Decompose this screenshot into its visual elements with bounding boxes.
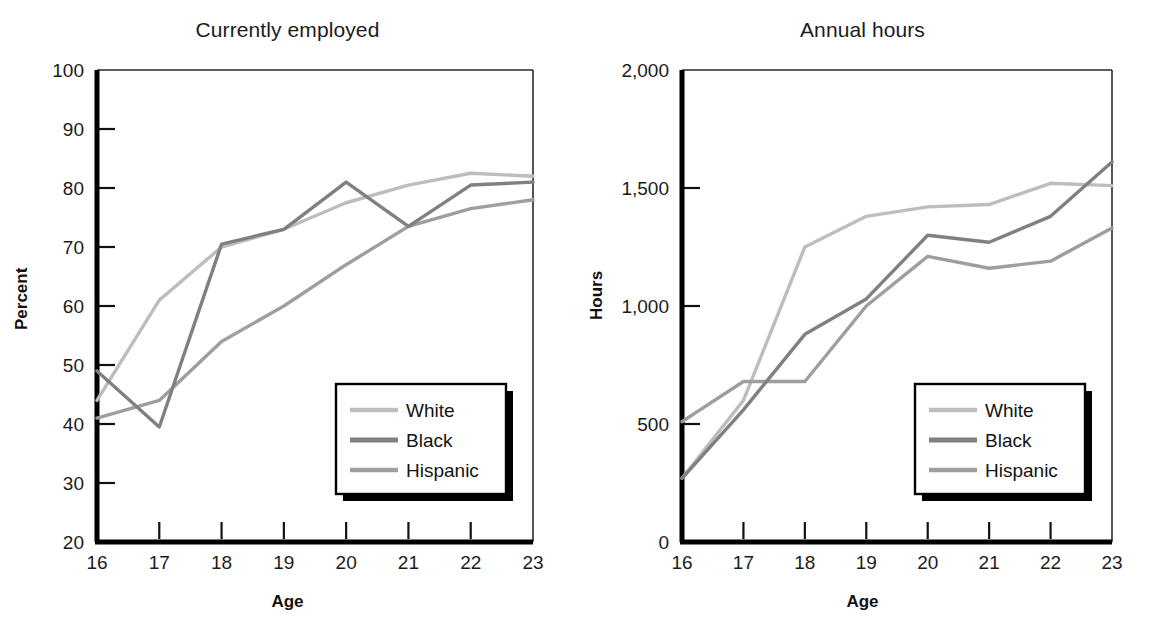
y-tick-label: 100 [52,60,84,81]
x-tick-label: 20 [917,552,938,573]
x-tick-label: 22 [1040,552,1061,573]
y-tick-label: 40 [63,414,84,435]
x-tick-label: 21 [979,552,1000,573]
y-tick-label: 70 [63,237,84,258]
plot-area-right: 05001,0001,5002,0001617181920212223White… [575,0,1150,629]
x-tick-label: 23 [1101,552,1122,573]
x-tick-label: 17 [149,552,170,573]
legend-label-black: Black [985,430,1032,451]
x-tick-label: 16 [86,552,107,573]
y-tick-label: 30 [63,473,84,494]
y-tick-label: 60 [63,296,84,317]
x-tick-label: 18 [794,552,815,573]
y-tick-label: 500 [637,414,669,435]
panel-annual-hours: Annual hours Hours Age 05001,0001,5002,0… [575,0,1150,629]
x-tick-label: 23 [522,552,543,573]
legend-label-black: Black [406,430,453,451]
y-tick-label: 80 [63,178,84,199]
x-tick-label: 19 [856,552,877,573]
x-tick-label: 16 [671,552,692,573]
y-tick-label: 2,000 [621,60,669,81]
y-tick-label: 0 [658,532,669,553]
y-tick-label: 1,000 [621,296,669,317]
y-tick-label: 50 [63,355,84,376]
y-tick-label: 1,500 [621,178,669,199]
x-tick-label: 18 [211,552,232,573]
two-panel-line-chart-figure: Currently employed Percent Age 203040506… [0,0,1150,629]
x-tick-label: 17 [733,552,754,573]
legend-label-hispanic: Hispanic [406,460,479,481]
legend-label-hispanic: Hispanic [985,460,1058,481]
x-tick-label: 21 [398,552,419,573]
panel-currently-employed: Currently employed Percent Age 203040506… [0,0,575,629]
y-tick-label: 20 [63,532,84,553]
legend-label-white: White [985,400,1034,421]
x-tick-label: 19 [273,552,294,573]
y-tick-label: 90 [63,119,84,140]
plot-area-left: 20304050607080901001617181920212223White… [0,0,575,629]
x-tick-label: 22 [460,552,481,573]
legend-label-white: White [406,400,455,421]
x-tick-label: 20 [336,552,357,573]
